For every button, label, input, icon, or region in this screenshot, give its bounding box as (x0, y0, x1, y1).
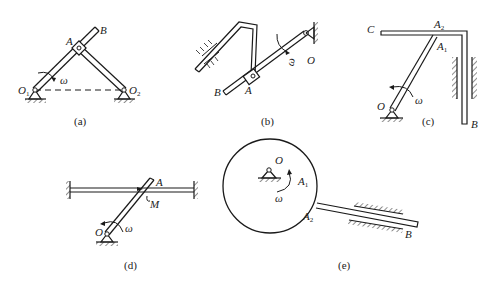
label-o1: O1 (18, 84, 30, 98)
label-c: C (367, 23, 375, 35)
label-omega: ω (284, 57, 297, 67)
caption-c: (c) (422, 115, 435, 128)
label-b: B (214, 86, 221, 98)
horizontal-bar (70, 188, 194, 192)
fixed-guide-right (472, 57, 477, 99)
panel-d: A M O ω (d) (66, 176, 198, 272)
panel-c: C A2 A1 O ω B (c) (367, 18, 478, 130)
rotation-arrow-icon (392, 86, 413, 97)
label-o: O (275, 154, 283, 166)
label-omega: ω (60, 74, 68, 86)
mechanism-figure: A B O1 O2 ω (a) (0, 0, 496, 289)
wall-left (66, 181, 70, 199)
pin-a (77, 46, 81, 50)
wall-right (194, 181, 198, 199)
panel-a: A B O1 O2 ω (a) (18, 24, 141, 128)
label-o: O (95, 226, 103, 238)
fixed-guide-top (354, 202, 404, 214)
fixed-guide-left (452, 57, 457, 99)
caption-b: (b) (261, 115, 274, 128)
label-b: B (100, 24, 107, 36)
rotation-arrow-icon (38, 72, 54, 80)
label-a2: A2 (302, 210, 314, 224)
label-o: O (377, 100, 385, 112)
caption-e: (e) (338, 259, 351, 272)
label-a: A (65, 35, 73, 47)
panel-e: O A1 A2 ω B (e) (223, 139, 418, 272)
caption-d: (d) (124, 259, 137, 272)
label-a1: A1 (436, 40, 448, 54)
label-o: O (307, 54, 315, 66)
label-o2: O2 (129, 84, 141, 98)
label-m: M (149, 198, 160, 210)
crank-o-a1 (390, 35, 437, 111)
label-b: B (471, 118, 478, 130)
label-omega: ω (415, 94, 423, 106)
caption-a: (a) (74, 115, 87, 128)
label-a2: A2 (433, 18, 445, 32)
bent-rod (195, 22, 257, 75)
fixed-guide-bottom (348, 220, 403, 233)
rod-o2-a (77, 46, 126, 92)
label-omega: ω (125, 222, 133, 234)
label-a: A (244, 84, 252, 96)
label-b: B (405, 228, 412, 240)
pivot-support-o (304, 22, 318, 44)
label-omega: ω (275, 192, 283, 204)
panel-b: A B O ω (b) (195, 22, 318, 128)
label-a: A (155, 176, 163, 188)
